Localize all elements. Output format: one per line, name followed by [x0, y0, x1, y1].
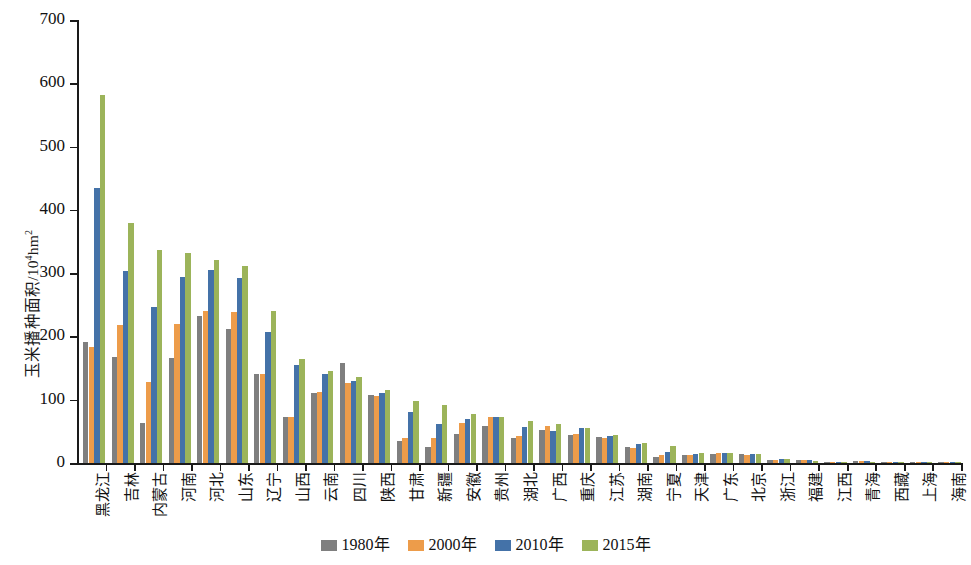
bar — [146, 382, 151, 463]
bar — [203, 311, 208, 463]
bar-group — [881, 20, 904, 463]
bar-group — [226, 20, 249, 463]
legend-item[interactable]: 2015年 — [582, 536, 651, 554]
bar — [516, 436, 521, 463]
bar — [140, 423, 145, 464]
legend-item[interactable]: 2000年 — [408, 536, 477, 554]
bar — [579, 428, 584, 463]
x-axis-label: 广西 — [554, 472, 566, 502]
x-axis-tick — [704, 463, 706, 471]
bar — [722, 453, 727, 463]
x-axis-tick — [448, 463, 450, 471]
bar — [881, 462, 886, 463]
x-axis-label: 四川 — [354, 472, 366, 502]
y-axis-line — [77, 20, 79, 463]
bar — [796, 460, 801, 463]
bar — [499, 417, 504, 463]
bar — [311, 393, 316, 463]
bar — [642, 443, 647, 463]
bar — [853, 461, 858, 463]
bar-group — [653, 20, 676, 463]
bar — [813, 461, 818, 463]
x-axis-tick — [932, 463, 934, 471]
bar-group — [83, 20, 106, 463]
bar-group — [824, 20, 847, 463]
legend-item[interactable]: 1980年 — [321, 536, 390, 554]
bar — [870, 462, 875, 463]
y-axis-title-main: 玉米播种面积/10 — [24, 260, 41, 378]
x-axis-label: 内蒙古 — [154, 472, 166, 517]
x-axis-tick — [191, 463, 193, 471]
bar — [756, 454, 761, 463]
bar — [511, 438, 516, 463]
bar-group — [425, 20, 448, 463]
x-axis-tick — [761, 463, 763, 471]
bar-group — [910, 20, 933, 463]
x-axis-tick — [163, 463, 165, 471]
corn-sowing-area-bar-chart: 玉米播种面积/104hm2 0100200300400500600700 黑龙江… — [0, 0, 971, 565]
y-axis-title-exponent: 4 — [23, 255, 34, 260]
bar — [374, 396, 379, 463]
y-axis-tick: 0 — [70, 463, 77, 465]
bar — [112, 357, 117, 463]
bar-group — [710, 20, 733, 463]
bar — [340, 363, 345, 463]
x-axis-label: 宁夏 — [668, 472, 680, 502]
bar — [893, 462, 898, 463]
bar-group — [140, 20, 163, 463]
bar — [779, 459, 784, 463]
x-axis-label: 新疆 — [439, 472, 451, 502]
x-axis-tick — [505, 463, 507, 471]
legend-item[interactable]: 2010年 — [495, 536, 564, 554]
bar — [385, 390, 390, 463]
bar — [910, 462, 915, 463]
bar — [174, 324, 179, 463]
y-axis-tick: 100 — [70, 400, 77, 402]
bar — [602, 438, 607, 463]
bar — [242, 266, 247, 463]
bar — [185, 253, 190, 463]
bar — [317, 392, 322, 463]
y-axis-tick-label: 200 — [40, 325, 66, 345]
bar — [550, 431, 555, 463]
y-axis-tick: 200 — [70, 336, 77, 338]
y-axis-title-unit-exponent: 2 — [23, 230, 34, 235]
bar-group — [568, 20, 591, 463]
bar — [630, 448, 635, 463]
legend-label: 2010年 — [516, 536, 564, 554]
x-axis-label: 江苏 — [611, 472, 623, 502]
bar — [356, 377, 361, 463]
bar — [784, 459, 789, 463]
x-axis-tick — [134, 463, 136, 471]
bar — [716, 453, 721, 463]
plot-area: 0100200300400500600700 — [77, 20, 961, 463]
x-axis-label: 浙江 — [782, 472, 794, 502]
x-axis-label: 河北 — [211, 472, 223, 502]
bar-group — [311, 20, 334, 463]
bar — [425, 447, 430, 463]
bar-group — [197, 20, 220, 463]
bar — [545, 426, 550, 463]
bar-group — [283, 20, 306, 463]
bar-group — [169, 20, 192, 463]
bar — [408, 412, 413, 463]
bar-group — [539, 20, 562, 463]
x-axis-label: 山西 — [297, 472, 309, 502]
y-axis-tick-label: 400 — [40, 199, 66, 219]
bar-group — [112, 20, 135, 463]
bar — [488, 417, 493, 463]
x-axis-label: 辽宁 — [268, 472, 280, 502]
x-axis-label: 云南 — [325, 472, 337, 502]
x-axis-label: 福建 — [810, 472, 822, 502]
bar — [522, 427, 527, 463]
bar — [465, 419, 470, 463]
bar — [659, 455, 664, 463]
bar — [693, 454, 698, 463]
x-axis-label: 陕西 — [382, 472, 394, 502]
legend-swatch-icon — [495, 540, 511, 551]
legend-label: 2000年 — [429, 536, 477, 554]
bar — [368, 395, 373, 463]
x-axis-tick — [334, 463, 336, 471]
bar — [841, 462, 846, 463]
x-axis-line — [77, 463, 961, 465]
